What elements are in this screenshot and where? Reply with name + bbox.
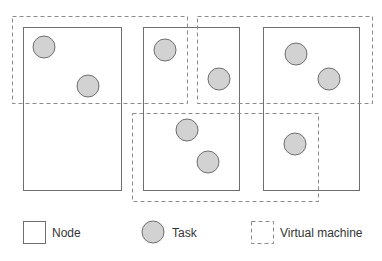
task-circle-1 — [33, 36, 55, 58]
virtual-machines-layer — [13, 17, 373, 202]
legend-task-icon — [142, 221, 164, 243]
cluster-diagram — [0, 0, 382, 261]
legend-node-label: Node — [52, 226, 81, 240]
task-circle-3 — [154, 39, 176, 61]
legend-vm-label: Virtual machine — [280, 226, 363, 240]
task-circle-5 — [285, 43, 307, 65]
legend-node-icon — [24, 222, 46, 244]
node-box-3 — [264, 28, 360, 191]
vm-box-2 — [198, 17, 373, 104]
task-circle-7 — [176, 119, 198, 141]
task-circle-4 — [208, 68, 230, 90]
legend-vm-icon — [252, 222, 274, 244]
tasks-layer — [33, 36, 340, 173]
task-circle-2 — [77, 75, 99, 97]
task-circle-8 — [197, 151, 219, 173]
legend-task-label: Task — [172, 226, 197, 240]
vm-box-3 — [133, 114, 319, 202]
task-circle-6 — [318, 68, 340, 90]
nodes-layer — [24, 28, 360, 191]
task-circle-9 — [284, 133, 306, 155]
